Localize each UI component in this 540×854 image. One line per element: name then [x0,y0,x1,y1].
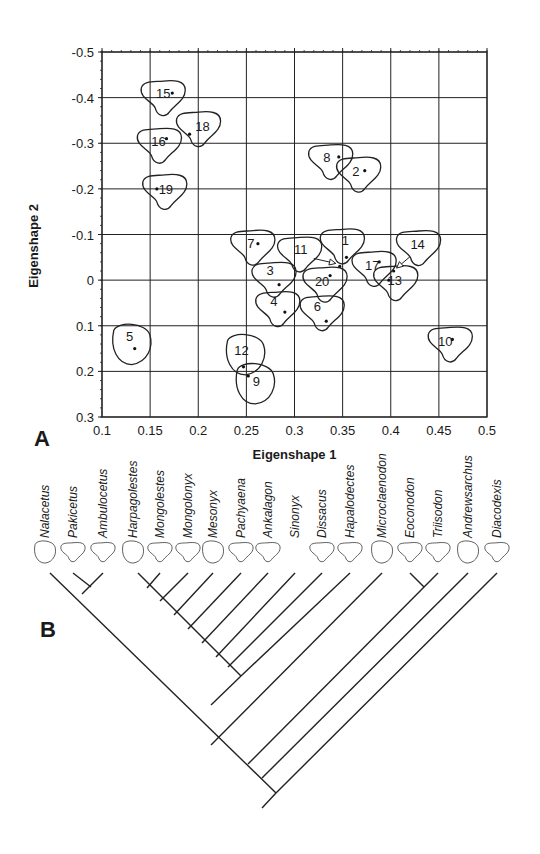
taxon-label: Nalacetus [38,485,52,538]
branch-mongolonyx [160,573,188,601]
tooth-outline-icon [176,543,200,562]
taxon-microclaenodon: Microclaenodon [372,453,393,563]
data-point-marker [363,169,366,172]
data-point-marker [171,91,174,94]
tooth-outline-icon [203,541,224,563]
data-point-marker [242,365,245,368]
data-point-label: 13 [388,273,402,288]
taxon-label: Mesonyx [206,489,220,538]
data-point-14: 14 [392,231,441,273]
taxon-diacodexis: Diacodexis [485,479,509,561]
tooth-outline-icon [229,543,253,562]
taxon-eoconodon: Eoconodon [398,477,422,562]
data-point-7: 7 [231,230,275,265]
tooth-outline-icon [485,543,509,562]
taxon-label: Sinonyx [288,494,302,538]
data-point-label: 7 [247,236,254,251]
tooth-outline-icon [61,543,85,562]
branch-diacodexis [276,573,497,793]
scatter-plot: 0.10.150.20.250.30.350.40.450.5-0.5-0.4-… [26,45,496,462]
y-tick-label: -0.2 [72,182,94,197]
taxon-label: Hapalodectes [343,465,357,538]
tooth-outline-icon [309,145,353,180]
tooth-outline-icon [148,543,172,562]
panel-a-label: A [34,426,50,451]
tooth-outline-icon [256,543,280,562]
y-axis-title: Eigenshape 2 [26,204,41,288]
data-point-marker [337,155,340,158]
data-point-marker [325,320,328,323]
connector [211,676,241,705]
taxon-label: Ankalagon [261,481,275,539]
x-tick-label: 0.45 [426,423,451,438]
data-point-label: 17 [365,258,379,273]
taxon-harpagolestes: Harpagolestes [123,461,144,563]
figure-canvas: 0.10.150.20.250.30.350.40.450.5-0.5-0.4-… [0,0,540,854]
y-tick-label: -0.1 [72,228,94,243]
data-point-12: 12 [226,334,264,374]
taxon-mongolestes: Mongolestes [148,470,172,562]
y-tick-label: 0.2 [76,364,94,379]
tooth-outline-icon [91,543,115,562]
data-point-marker [256,242,259,245]
x-tick-label: 0.15 [137,423,162,438]
data-point-marker [133,347,136,350]
data-point-marker [278,283,281,286]
taxon-nalacetus: Nalacetus [35,485,56,563]
taxon-mesonyx: Mesonyx [203,489,224,563]
branch-ankalagon [202,573,268,643]
data-point-marker [345,256,348,259]
data-point-label: 11 [294,242,308,257]
x-tick-label: 0.1 [93,423,111,438]
tooth-outline-icon [310,543,334,562]
taxon-dissacus: Dissacus [310,489,334,561]
data-point-label: 2 [352,164,359,179]
branch-dissacus [228,573,322,667]
data-point-label: 12 [234,343,248,358]
taxon-label: Pakicetus [66,486,80,538]
data-point-marker [188,133,191,136]
data-point-label: 20 [315,274,329,289]
taxon-label: Pachyaena [234,478,248,538]
data-point-10: 10 [428,327,472,362]
taxon-label: Andrewsarchus [461,455,475,539]
tooth-outline-icon [35,541,56,563]
root-stem [262,793,276,808]
data-point-label: 18 [195,119,209,134]
arrowhead-icon [329,259,336,265]
x-axis-title: Eigenshape 1 [253,447,337,462]
data-point-label: 5 [126,329,133,344]
y-tick-label: 0.1 [76,319,94,334]
cladogram: NalacetusPakicetusAmbulocetusHarpagolest… [35,453,510,808]
data-point-label: 1 [342,233,349,248]
taxon-label: Diacodexis [490,479,504,538]
taxon-label: Microclaenodon [375,453,389,538]
taxon-label: Harpagolestes [126,461,140,538]
y-tick-label: -0.3 [72,136,94,151]
data-point-label: 4 [270,294,277,309]
taxon-label: Eoconodon [403,477,417,538]
tooth-outline-icon [398,543,422,562]
branch-pachyaena [188,573,241,629]
data-point-5: 5 [113,324,151,364]
x-tick-label: 0.4 [382,423,400,438]
data-point-marker [283,310,286,313]
taxon-ankalagon: Ankalagon [256,481,280,562]
taxon-label: Triisodon [431,489,445,538]
tooth-outline-icon [372,541,393,563]
x-tick-label: 0.35 [330,423,355,438]
data-point-label: 19 [159,182,173,197]
branch-mongolestes [147,573,160,588]
x-tick-label: 0.25 [234,423,259,438]
tooth-outline-icon [426,543,450,562]
data-point-16: 16 [137,128,181,163]
panel-b-label: B [40,617,56,642]
spine-main [50,573,276,793]
branch-ambulocetus [82,573,103,594]
tooth-outline-icon [338,543,362,562]
y-tick-label: -0.5 [72,45,94,60]
taxon-ambulocetus: Ambulocetus [91,469,115,562]
data-point-label: 8 [323,150,330,165]
taxon-pachyaena: Pachyaena [229,478,253,562]
branch-eoconodon-triisodon [248,573,438,764]
